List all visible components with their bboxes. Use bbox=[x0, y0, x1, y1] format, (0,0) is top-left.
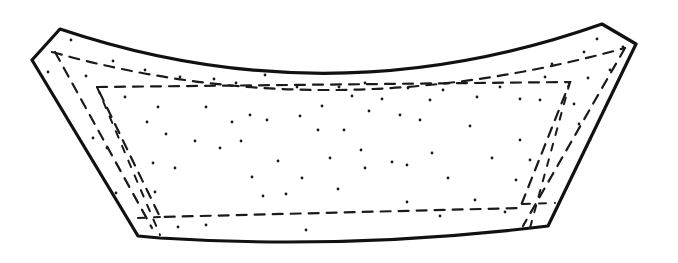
panel-figure bbox=[0, 0, 678, 263]
stipple-dot bbox=[476, 96, 479, 99]
stipple-dot bbox=[174, 167, 177, 170]
stipple-dot bbox=[406, 164, 409, 167]
stipple-dot bbox=[544, 76, 547, 79]
stipple-dot bbox=[360, 149, 363, 152]
stipple-dot bbox=[622, 46, 625, 49]
stipple-dot bbox=[262, 195, 265, 198]
stipple-dot bbox=[337, 188, 340, 191]
stipple-dot bbox=[381, 98, 384, 101]
stipple-dot bbox=[551, 63, 554, 66]
stipple-dot bbox=[115, 192, 118, 195]
stipple-dot bbox=[515, 179, 518, 182]
stipple-dot bbox=[47, 71, 50, 74]
stipple-dot bbox=[474, 199, 477, 202]
stipple-dot bbox=[431, 152, 434, 155]
stipple-dot bbox=[301, 177, 304, 180]
stipple-dot bbox=[205, 224, 208, 227]
stipple-dot bbox=[596, 38, 599, 41]
inner-panel-outline bbox=[97, 82, 570, 217]
outer-outline bbox=[32, 24, 636, 242]
stipple-dot bbox=[144, 69, 147, 72]
stipple-dot bbox=[177, 226, 180, 229]
stipple-dot bbox=[154, 191, 157, 194]
stipple-dot bbox=[491, 157, 494, 160]
stipple-dot bbox=[364, 167, 367, 170]
stipple-dot bbox=[519, 139, 522, 142]
stipple-dot bbox=[251, 176, 254, 179]
stipple-dot bbox=[124, 96, 127, 99]
stipple-dot bbox=[152, 162, 155, 165]
stipple-dot bbox=[321, 105, 324, 108]
stipple-dot bbox=[92, 137, 95, 140]
stipple-dot bbox=[469, 125, 472, 128]
stipple-dot bbox=[447, 177, 450, 180]
stipple-dot bbox=[539, 99, 542, 102]
stipple-dot bbox=[573, 103, 576, 106]
stipple-dot bbox=[240, 140, 243, 143]
bottom-seam-left bbox=[138, 217, 160, 218]
stipple-dot bbox=[399, 114, 402, 117]
stipple-dot bbox=[429, 99, 432, 102]
stipple-dot bbox=[296, 86, 299, 89]
stipple-dot bbox=[364, 82, 367, 85]
stipple-dot bbox=[609, 69, 612, 72]
stipple-dot bbox=[407, 87, 410, 90]
stipple-dot bbox=[194, 140, 197, 143]
stipple-dot bbox=[70, 39, 73, 42]
stipple-dot bbox=[235, 82, 238, 85]
stipple-dot bbox=[285, 193, 288, 196]
stipple-dot bbox=[351, 95, 354, 98]
stipple-dot bbox=[179, 76, 182, 79]
bottom-seam-right bbox=[523, 203, 555, 204]
stipple-dot bbox=[317, 129, 320, 132]
stipple-dot bbox=[329, 157, 332, 160]
stipple-dot bbox=[406, 201, 409, 204]
fold-line-left bbox=[97, 87, 160, 235]
stipple-dots bbox=[47, 38, 625, 232]
stipple-dot bbox=[219, 147, 222, 150]
stipple-dot bbox=[85, 75, 88, 78]
stipple-dot bbox=[499, 86, 502, 89]
stipple-dot bbox=[439, 215, 442, 218]
stipple-dot bbox=[587, 77, 590, 80]
stipple-dot bbox=[106, 147, 109, 150]
stipple-dot bbox=[277, 160, 280, 163]
stipple-dot bbox=[578, 123, 581, 126]
stipple-dot bbox=[205, 106, 208, 109]
stipple-dot bbox=[146, 121, 149, 124]
stipple-dot bbox=[264, 74, 267, 77]
stipple-dot bbox=[213, 78, 216, 81]
stipple-dot bbox=[165, 133, 168, 136]
stipple-dot bbox=[157, 106, 160, 109]
stipple-dot bbox=[266, 119, 269, 122]
stipple-dot bbox=[419, 119, 422, 122]
stipple-dot bbox=[299, 115, 302, 118]
stipple-dot bbox=[338, 86, 341, 89]
stipple-dot bbox=[583, 51, 586, 54]
stipple-dot bbox=[368, 110, 371, 113]
stipple-dot bbox=[343, 129, 346, 132]
stipple-dot bbox=[231, 121, 234, 124]
stipple-dot bbox=[249, 114, 252, 117]
patent-drawing bbox=[0, 0, 678, 263]
stipple-dot bbox=[305, 229, 308, 232]
seam-line-right bbox=[523, 48, 625, 226]
fold-line-right bbox=[530, 82, 570, 228]
stipple-dot bbox=[442, 89, 445, 92]
stipple-dot bbox=[589, 139, 592, 142]
stipple-dot bbox=[504, 211, 507, 214]
stipple-dot bbox=[112, 60, 115, 63]
seam-line-left bbox=[55, 52, 152, 228]
stipple-dot bbox=[519, 98, 522, 101]
stipple-dot bbox=[529, 159, 532, 162]
stipple-dot bbox=[391, 161, 394, 164]
